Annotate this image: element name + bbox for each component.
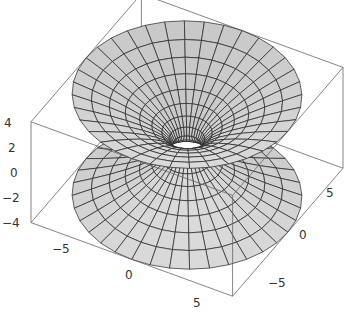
x-tick-5: 5 [193, 296, 201, 310]
z-tick-0: 0 [10, 166, 18, 180]
y-tick-0: 0 [299, 228, 307, 242]
surface-patch [175, 216, 189, 233]
y-tick-5: 5 [326, 186, 334, 200]
surface-patch [178, 200, 189, 216]
z-tick-2: 2 [8, 141, 16, 155]
z-tick-neg2: −2 [2, 191, 20, 205]
surface-patch [189, 250, 209, 270]
catenoid-surface [72, 21, 302, 269]
surface-patch [170, 250, 190, 270]
z-tick-4: 4 [4, 116, 12, 130]
surface-patch [189, 161, 209, 168]
z-tick-neg4: −4 [2, 216, 20, 230]
x-tick-neg5: −5 [52, 242, 70, 256]
z-axis-ticks: 4 2 0 −2 −4 [2, 116, 20, 230]
surface-plot: 4 2 0 −2 −4 −5 0 5 5 0 −5 [0, 0, 359, 322]
y-tick-neg5: −5 [268, 276, 286, 290]
surface-patch [184, 21, 204, 41]
surface-patch [173, 232, 190, 250]
x-tick-0: 0 [125, 268, 133, 282]
surface-patch [170, 161, 190, 168]
